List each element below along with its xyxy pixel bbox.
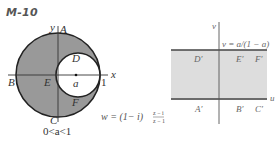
conformal-map-diagram: x y A B C D E F a 1 0<a<1 w = (1− i) z −… [0,0,278,141]
point-F-prime-label: F′ [254,54,263,64]
point-E-prime-label: E′ [235,54,244,64]
point-C-prime-label: C′ [255,104,264,114]
v-axis-label: v [212,21,216,31]
condition-label: 0<a<1 [43,125,71,137]
one-label: 1 [101,76,107,88]
upper-line-equation: v = a/(1 − a) [222,39,269,49]
point-F-label: F [71,96,79,108]
mapping-formula: w = (1− i) z − i z − 1 [101,110,165,124]
point-A-label: A [59,23,67,35]
y-axis-label: y [49,21,55,33]
formula-numerator: z − i [153,110,164,116]
center-a-label: a [73,77,79,89]
point-D-label: D [71,52,80,64]
formula-denominator: z − 1 [153,118,165,124]
formula-prefix: w = (1− i) [101,111,144,123]
point-B-label: B [8,76,15,88]
point-D-prime-label: D′ [193,54,203,64]
u-axis-label: u [270,93,275,103]
x-axis-label: x [110,68,116,80]
point-B-prime-label: B′ [236,104,244,114]
point-E-label: E [43,76,51,88]
z-plane: x y A B C D E F a 1 0<a<1 [8,21,116,137]
center-point [75,74,78,77]
point-A-prime-label: A′ [194,104,203,114]
w-plane: v u v = a/(1 − a) D′ E′ F′ A′ B′ C′ [171,21,275,124]
